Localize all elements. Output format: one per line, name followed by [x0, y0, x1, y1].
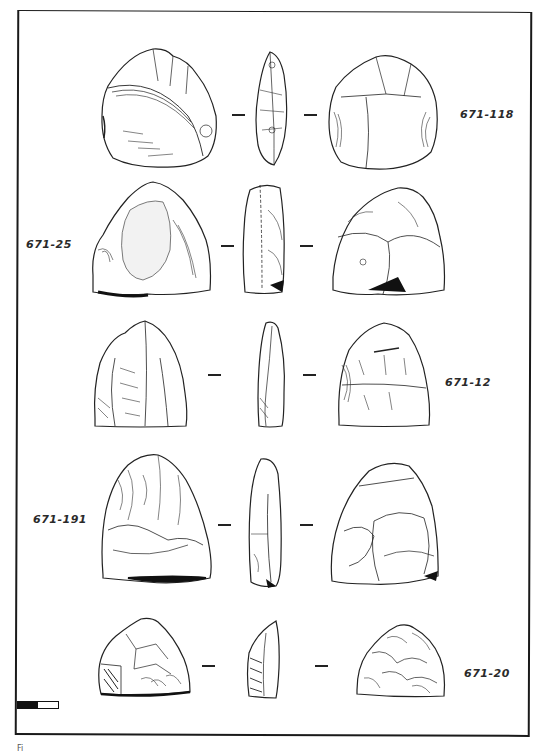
- figure-caption-fragment: Fi: [17, 744, 23, 751]
- view-separator: [221, 245, 234, 247]
- artifact-671-118-profile: [252, 50, 294, 168]
- artifact-label: 671-12: [445, 376, 491, 389]
- scale-bar-black-segment: [18, 702, 38, 708]
- artifact-671-191-profile: [246, 454, 286, 590]
- artifact-671-20-profile: [244, 618, 284, 700]
- artifact-671-118-dorsal: [98, 46, 220, 171]
- artifact-671-118-ventral: [326, 52, 441, 172]
- artifact-671-12-ventral: [334, 320, 434, 430]
- view-separator: [202, 665, 215, 667]
- view-separator: [300, 245, 313, 247]
- artifact-671-191-ventral: [324, 456, 442, 592]
- artifact-671-12-dorsal: [90, 318, 190, 430]
- view-separator: [300, 524, 313, 526]
- artifact-671-25-ventral: [328, 182, 450, 300]
- view-separator: [303, 374, 316, 376]
- scale-bar: [17, 701, 59, 709]
- artifact-671-12-profile: [254, 318, 290, 430]
- artifact-671-25-dorsal: [88, 180, 216, 298]
- artifact-671-25-profile: [240, 180, 290, 298]
- view-separator: [232, 114, 245, 116]
- artifact-label: 671-118: [460, 108, 514, 121]
- artifact-label: 671-25: [26, 238, 72, 251]
- view-separator: [304, 114, 317, 116]
- view-separator: [218, 524, 231, 526]
- view-separator: [208, 374, 221, 376]
- artifact-label: 671-20: [464, 667, 510, 680]
- artifact-671-20-dorsal: [96, 614, 192, 698]
- artifact-label: 671-191: [33, 513, 87, 526]
- artifact-671-20-ventral: [352, 618, 448, 700]
- artifact-671-191-dorsal: [98, 450, 216, 590]
- view-separator: [315, 665, 328, 667]
